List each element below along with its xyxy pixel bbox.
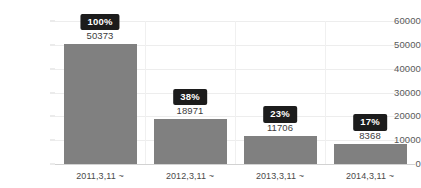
axis-baseline	[55, 164, 415, 165]
bar[interactable]	[244, 136, 317, 164]
bar-chart: 010000200003000040000500006000050373100%…	[0, 0, 421, 188]
bar[interactable]	[154, 119, 227, 164]
category-separator	[145, 21, 146, 164]
category-separator	[235, 21, 236, 164]
bar-percent-badge: 17%	[353, 114, 387, 131]
bar-value-label: 18971	[177, 106, 204, 116]
bar-percent-badge: 23%	[263, 106, 297, 123]
bar[interactable]	[64, 44, 137, 164]
y-axis-tick-label: 60000	[373, 16, 421, 26]
x-axis-category-label: 2012,3,11 ~	[166, 172, 214, 181]
x-axis-category-label: 2014,3,11 ~	[346, 172, 394, 181]
bar[interactable]	[334, 144, 407, 164]
y-axis-tickmark	[50, 68, 55, 69]
bar-percent-badge: 38%	[173, 89, 207, 106]
category-separator	[325, 21, 326, 164]
bar-value-label: 8368	[359, 131, 381, 141]
y-axis-tick-label: 50000	[373, 40, 421, 50]
y-axis-tickmark	[50, 140, 55, 141]
y-axis-tick-label: 30000	[373, 88, 421, 98]
bar-value-label: 50373	[87, 31, 114, 41]
y-axis-tick-label: 40000	[373, 64, 421, 74]
y-axis-tickmark	[50, 21, 55, 22]
x-axis-category-label: 2011,3,11 ~	[76, 172, 124, 181]
y-axis-tickmark	[50, 164, 55, 165]
bar-percent-badge: 100%	[80, 14, 119, 31]
x-axis-category-label: 2013,3,11 ~	[256, 172, 304, 181]
y-axis-tickmark	[50, 116, 55, 117]
y-axis-tickmark	[50, 44, 55, 45]
y-axis-tickmark	[50, 92, 55, 93]
bar-value-label: 11706	[267, 123, 293, 133]
